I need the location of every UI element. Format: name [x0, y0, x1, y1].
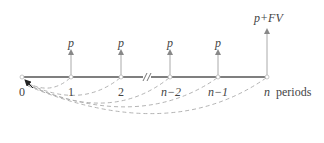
cash-flow-label: p — [118, 37, 124, 49]
discount-arcs — [26, 78, 266, 114]
cash-flow-label: p — [68, 37, 74, 49]
period-label: 0 — [19, 86, 25, 98]
period-label: 1 — [68, 86, 74, 98]
period-label: 2 — [118, 86, 124, 98]
period-label: n−2 — [161, 86, 181, 98]
axis-unit-label: periods — [276, 86, 311, 98]
final-cash-flow-label: p+FV — [254, 12, 283, 24]
axis-break-icon — [143, 73, 151, 81]
period-label: n — [264, 86, 270, 98]
cash-flow-label: p — [215, 37, 221, 49]
cash-flow-diagram: p p p p p+FV 0 1 2 n−2 n−1 n periods — [0, 0, 324, 143]
period-label: n−1 — [208, 86, 228, 98]
cash-flow-label: p — [167, 37, 173, 49]
